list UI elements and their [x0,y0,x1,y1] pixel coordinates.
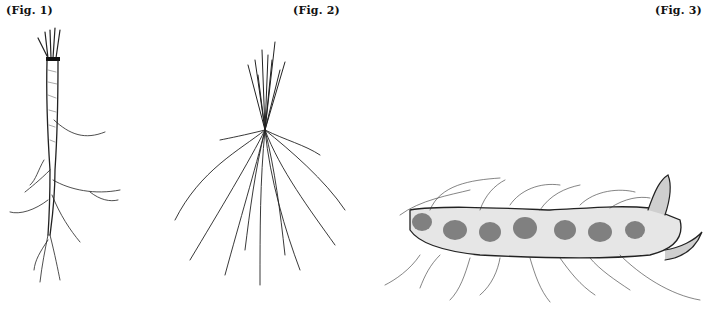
fig-2-label: (Fig. 2) [293,4,340,17]
fig-1-taproot-illustration [0,20,140,310]
fig-1-label: (Fig. 1) [6,4,53,17]
fig-3-label: (Fig. 3) [655,4,702,17]
fig-2-fibrous-root-illustration [160,20,360,310]
fig-3-rhizome-illustration [380,170,712,310]
